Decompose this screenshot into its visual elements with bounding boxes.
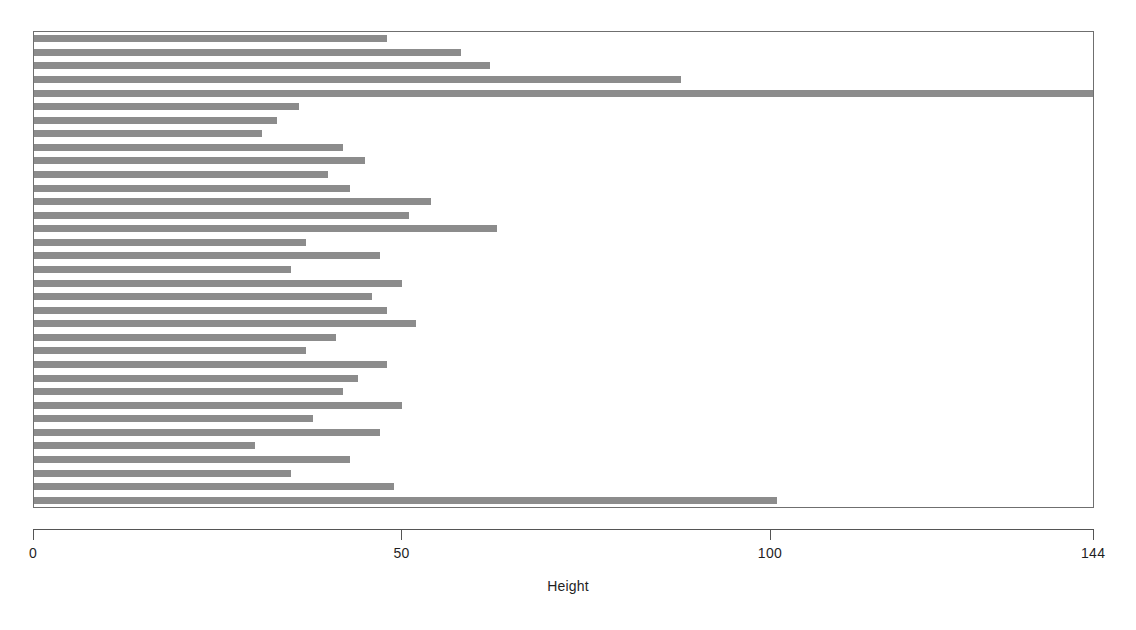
bar — [34, 361, 387, 368]
bar — [34, 280, 402, 287]
bar — [34, 90, 1093, 97]
bar-series — [34, 32, 1093, 507]
x-tick-label-0: 0 — [29, 545, 37, 561]
bar — [34, 239, 306, 246]
bar — [34, 62, 490, 69]
bar — [34, 388, 343, 395]
bar — [34, 144, 343, 151]
x-tick-label-100: 100 — [758, 545, 782, 561]
x-tick-0 — [33, 529, 34, 540]
bar — [34, 225, 497, 232]
bar — [34, 442, 255, 449]
x-tick-50 — [401, 529, 402, 540]
x-tick-label-50: 50 — [393, 545, 409, 561]
x-tick-100 — [770, 529, 771, 540]
bar — [34, 307, 387, 314]
bar — [34, 198, 431, 205]
bar — [34, 49, 461, 56]
bar — [34, 252, 380, 259]
bar — [34, 456, 350, 463]
bar — [34, 130, 262, 137]
bar — [34, 470, 291, 477]
plot-area — [33, 31, 1094, 508]
x-tick-label-144: 144 — [1081, 545, 1105, 561]
bar — [34, 320, 416, 327]
x-axis-title: Height — [0, 578, 1136, 594]
bar — [34, 266, 291, 273]
bar — [34, 103, 299, 110]
bar — [34, 212, 409, 219]
bar — [34, 402, 402, 409]
bar — [34, 171, 328, 178]
bar — [34, 429, 380, 436]
bar — [34, 157, 365, 164]
bar — [34, 497, 777, 504]
bar — [34, 35, 387, 42]
bar — [34, 347, 306, 354]
x-axis-line — [33, 529, 1094, 530]
chart-figure: 0 50 100 144 Height — [0, 0, 1136, 630]
bar — [34, 185, 350, 192]
x-axis — [33, 529, 1094, 543]
bar — [34, 375, 358, 382]
x-tick-144 — [1093, 529, 1094, 540]
bar — [34, 117, 277, 124]
bar — [34, 483, 394, 490]
bar — [34, 415, 313, 422]
bar — [34, 334, 336, 341]
bar — [34, 293, 372, 300]
bar — [34, 76, 681, 83]
